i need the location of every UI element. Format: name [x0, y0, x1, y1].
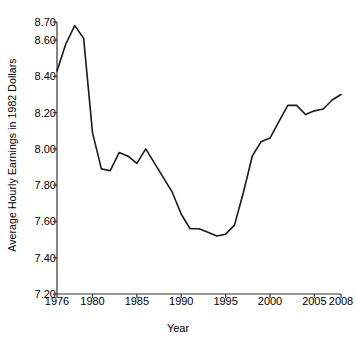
x-axis-title: Year [0, 322, 356, 334]
x-tick-label: 1976 [45, 296, 69, 307]
x-tick-label: 1990 [169, 296, 193, 307]
x-tick-label: 2000 [258, 296, 282, 307]
x-tick-label: 1985 [125, 296, 149, 307]
chart-container: Average Hourly Earnings in 1982 Dollars … [0, 0, 356, 347]
x-tick-label: 1995 [213, 296, 237, 307]
x-tick-label: 2005 [302, 296, 326, 307]
axes [57, 22, 341, 294]
data-series-line [57, 26, 341, 236]
x-tick-label: 1980 [80, 296, 104, 307]
x-tick-label: 2008 [329, 296, 353, 307]
